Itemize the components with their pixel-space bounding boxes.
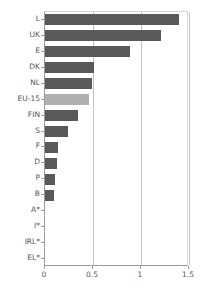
- x-axis-tick-label: 1.5: [182, 270, 194, 279]
- bar-e[interactable]: [45, 46, 130, 57]
- y-axis-tick: [41, 51, 44, 52]
- y-axis-tick: [41, 162, 44, 163]
- y-axis-category-labels: LUKEDKNLEU-15FINSFDPBA*I*IRL*EL*: [0, 11, 40, 266]
- y-axis-tick: [41, 131, 44, 132]
- bar-d[interactable]: [45, 158, 57, 169]
- y-axis-label: S: [35, 127, 40, 135]
- bar-s[interactable]: [45, 126, 68, 137]
- y-axis-label: EL*: [27, 254, 40, 262]
- bar-row: [45, 158, 187, 169]
- x-axis-tick-labels: 00.511.5: [0, 270, 205, 286]
- y-axis-label: IRL*: [25, 238, 40, 246]
- bar-row: [45, 238, 187, 249]
- bar-p[interactable]: [45, 174, 55, 185]
- y-axis-tick: [41, 67, 44, 68]
- x-axis-tick-label: 0.5: [86, 270, 98, 279]
- bar-row: [45, 94, 187, 105]
- y-axis-label: E: [35, 47, 40, 55]
- bar-eu-15[interactable]: [45, 94, 89, 105]
- y-axis-tick: [41, 258, 44, 259]
- bar-l[interactable]: [45, 14, 179, 25]
- bar-row: [45, 174, 187, 185]
- y-axis-label: I*: [34, 222, 40, 230]
- bar-row: [45, 222, 187, 233]
- gridline: [189, 12, 190, 265]
- y-axis-label: UK: [30, 31, 40, 39]
- bar-fin[interactable]: [45, 110, 78, 121]
- x-axis-tick: [140, 266, 141, 269]
- y-axis-tick: [41, 35, 44, 36]
- bar-row: [45, 110, 187, 121]
- bar-nl[interactable]: [45, 78, 92, 89]
- x-axis-tick-label: 1: [138, 270, 143, 279]
- y-axis-label: NL: [30, 79, 40, 87]
- bar-row: [45, 254, 187, 265]
- bar-row: [45, 30, 187, 41]
- bar-row: [45, 62, 187, 73]
- y-axis-label: EU-15: [18, 95, 40, 103]
- bar-f[interactable]: [45, 142, 58, 153]
- bar-row: [45, 46, 187, 57]
- y-axis-label: P: [35, 174, 40, 182]
- y-axis-tick: [41, 194, 44, 195]
- x-axis-tick-label: 0: [42, 270, 47, 279]
- y-axis-label: B: [35, 190, 40, 198]
- bar-uk[interactable]: [45, 30, 161, 41]
- y-axis-tick: [41, 146, 44, 147]
- bar-row: [45, 14, 187, 25]
- bar-rows: [45, 12, 187, 265]
- plot-area: [44, 11, 188, 266]
- y-axis-tick: [41, 242, 44, 243]
- y-axis-label: DK: [29, 63, 40, 71]
- y-axis-label: A*: [31, 206, 40, 214]
- bar-row: [45, 206, 187, 217]
- x-axis-tick: [188, 266, 189, 269]
- bar-chart: LUKEDKNLEU-15FINSFDPBA*I*IRL*EL* 00.511.…: [0, 0, 205, 302]
- y-axis-tick: [41, 210, 44, 211]
- y-axis-tick: [41, 115, 44, 116]
- bar-dk[interactable]: [45, 62, 94, 73]
- y-axis-label: F: [36, 142, 40, 150]
- bar-b[interactable]: [45, 190, 54, 201]
- x-axis-tick: [92, 266, 93, 269]
- y-axis-tick: [41, 83, 44, 84]
- y-axis-tick: [41, 178, 44, 179]
- y-axis-tick: [41, 226, 44, 227]
- y-axis-label: L: [36, 15, 40, 23]
- y-axis-label: D: [34, 158, 40, 166]
- bar-row: [45, 142, 187, 153]
- y-axis-tick: [41, 99, 44, 100]
- bar-row: [45, 126, 187, 137]
- bar-row: [45, 78, 187, 89]
- x-axis-tick: [44, 266, 45, 269]
- y-axis-tick: [41, 19, 44, 20]
- y-axis-label: FIN: [28, 111, 40, 119]
- bar-row: [45, 190, 187, 201]
